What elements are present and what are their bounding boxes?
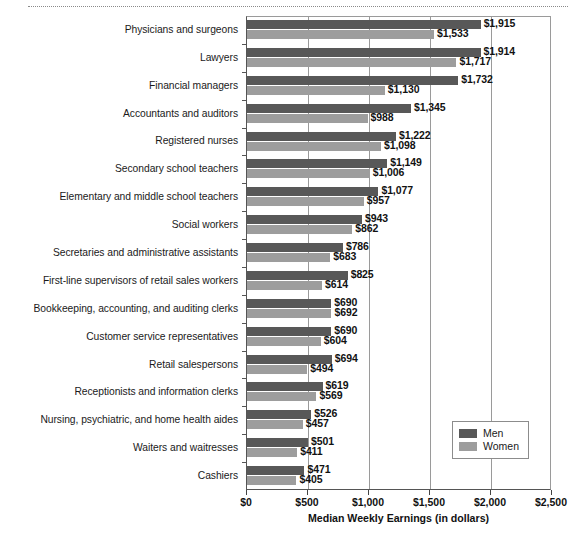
y-axis-tick	[242, 72, 246, 73]
category-label: Elementary and middle school teachers	[0, 191, 238, 203]
bar-men	[247, 327, 331, 336]
bar-value-label-women: $683	[333, 252, 356, 261]
chart-row: $825$614	[247, 268, 550, 296]
y-axis-tick	[242, 128, 246, 129]
plot-area: $1,915$1,533$1,914$1,717$1,732$1,130$1,3…	[246, 16, 551, 490]
chart-row: $943$862	[247, 212, 550, 240]
bar-value-label-women: $457	[306, 419, 329, 428]
bar-value-label-women: $1,533	[437, 29, 469, 38]
bar-value-label-women: $862	[355, 224, 378, 233]
grouped-bar-chart: Physicians and surgeonsLawyersFinancial …	[0, 0, 576, 533]
category-label: Cashiers	[0, 470, 238, 482]
bar-value-label-men: $1,345	[414, 103, 446, 112]
bar-women	[247, 142, 381, 151]
y-axis-tick	[242, 44, 246, 45]
chart-row: $1,732$1,130	[247, 73, 550, 101]
category-label: Waiters and waitresses	[0, 442, 238, 454]
bar-value-label-women: $1,006	[373, 168, 405, 177]
bar-women	[247, 448, 297, 457]
category-label: Bookkeeping, accounting, and auditing cl…	[0, 303, 238, 315]
bar-men	[247, 215, 362, 224]
bar-value-label-women: $692	[334, 308, 357, 317]
legend-label-women: Women	[483, 440, 519, 453]
bar-men	[247, 438, 308, 447]
chart-row: $1,077$957	[247, 184, 550, 212]
y-axis-tick	[242, 267, 246, 268]
bar-men	[247, 382, 323, 391]
x-axis-tick	[429, 490, 430, 495]
chart-row: $619$569	[247, 379, 550, 407]
y-axis-tick	[242, 323, 246, 324]
bar-men	[247, 132, 396, 141]
legend-label-men: Men	[483, 427, 503, 440]
category-label: First-line supervisors of retail sales w…	[0, 275, 238, 287]
bar-women	[247, 337, 321, 346]
category-label: Secretaries and administrative assistant…	[0, 247, 238, 259]
bar-value-label-women: $988	[371, 113, 394, 122]
bar-women	[247, 86, 385, 95]
bar-women	[247, 365, 307, 374]
bar-value-label-women: $569	[319, 391, 342, 400]
bar-men	[247, 410, 311, 419]
category-label: Registered nurses	[0, 135, 238, 147]
y-axis-tick	[242, 406, 246, 407]
bar-men	[247, 187, 378, 196]
x-axis-tick	[551, 490, 552, 495]
bar-women	[247, 114, 368, 123]
y-axis-tick	[242, 462, 246, 463]
bar-value-label-women: $1,130	[388, 85, 420, 94]
bar-value-label-women: $957	[367, 196, 390, 205]
bar-value-label-women: $1,717	[459, 57, 491, 66]
x-axis-tick	[368, 490, 369, 495]
x-axis-tick	[246, 490, 247, 495]
bar-women	[247, 309, 331, 318]
y-axis-tick	[242, 434, 246, 435]
y-axis-tick	[242, 351, 246, 352]
x-axis-tick-label: $500	[295, 496, 318, 508]
x-axis-tick	[307, 490, 308, 495]
x-axis-tick	[490, 490, 491, 495]
chart-row: $1,915$1,533	[247, 17, 550, 45]
bar-value-label-men: $825	[351, 270, 374, 279]
bar-value-label-men: $1,732	[461, 75, 493, 84]
y-axis-category-labels: Physicians and surgeonsLawyersFinancial …	[0, 16, 242, 490]
bar-women	[247, 169, 370, 178]
chart-row: $1,914$1,717	[247, 45, 550, 73]
bar-women	[247, 225, 352, 234]
y-axis-tick	[242, 378, 246, 379]
bar-value-label-women: $405	[299, 475, 322, 484]
bar-women	[247, 392, 316, 401]
bar-value-label-women: $411	[300, 447, 322, 456]
legend-swatch-women-icon	[459, 442, 477, 451]
chart-row: $1,149$1,006	[247, 156, 550, 184]
chart-row: $786$683	[247, 240, 550, 268]
category-label: Physicians and surgeons	[0, 24, 238, 36]
bar-men	[247, 48, 481, 57]
bar-women	[247, 58, 456, 67]
bar-men	[247, 76, 458, 85]
bar-men	[247, 466, 304, 475]
legend-item-men: Men	[459, 427, 519, 440]
bar-women	[247, 281, 322, 290]
x-axis-tick-label: $2,500	[535, 496, 567, 508]
bar-value-label-men: $1,915	[484, 19, 516, 28]
y-axis-tick	[242, 239, 246, 240]
chart-row: $694$494	[247, 352, 550, 380]
legend-item-women: Women	[459, 440, 519, 453]
category-label: Customer service representatives	[0, 331, 238, 343]
category-label: Receptionists and information clerks	[0, 386, 238, 398]
category-label: Financial managers	[0, 80, 238, 92]
y-axis-tick	[242, 183, 246, 184]
x-axis-tick-label: $2,000	[474, 496, 506, 508]
category-label: Retail salespersons	[0, 359, 238, 371]
bar-value-label-women: $494	[310, 364, 333, 373]
bar-women	[247, 253, 330, 262]
chart-legend: Men Women	[452, 421, 529, 459]
chart-row: $1,345$988	[247, 101, 550, 129]
bar-men	[247, 299, 331, 308]
y-axis-tick	[242, 295, 246, 296]
bar-value-label-women: $604	[324, 336, 347, 345]
chart-row: $1,222$1,098	[247, 129, 550, 157]
x-axis-tick-label: $1,000	[352, 496, 384, 508]
bar-women	[247, 30, 434, 39]
